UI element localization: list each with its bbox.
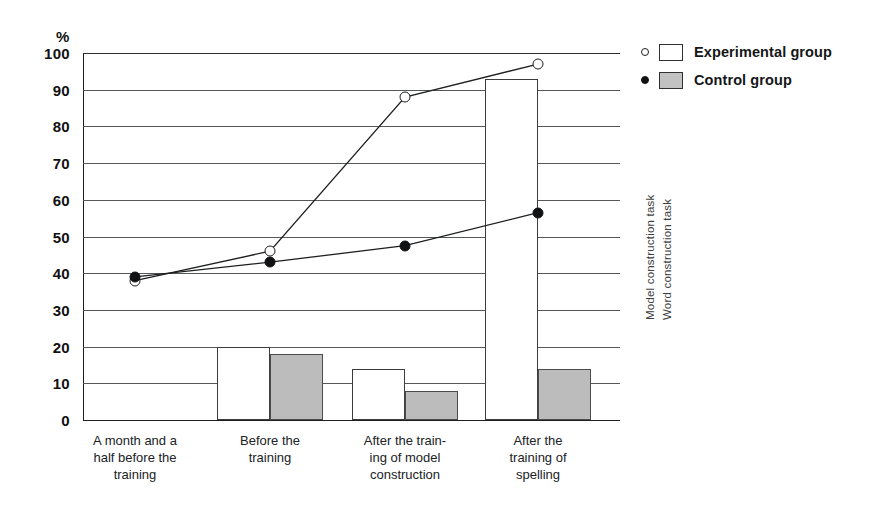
filled-circle-icon <box>636 76 654 84</box>
side-axis-label: Model construction task <box>644 195 656 320</box>
y-axis-tick-label: 100 <box>26 45 70 62</box>
chart-legend: Experimental groupControl group <box>636 40 886 96</box>
legend-dot <box>641 76 649 84</box>
legend-item[interactable]: Experimental group <box>636 40 886 64</box>
category-label-line: ing of model <box>330 449 480 466</box>
plot-area <box>83 53 620 420</box>
category-label-line: training of <box>463 449 613 466</box>
legend-dot <box>641 48 649 56</box>
open-circle-marker <box>400 92 411 103</box>
category-label-line: After the train- <box>330 432 480 449</box>
open-circle-marker <box>533 59 544 70</box>
y-axis-tick-label: 30 <box>26 301 70 318</box>
line-series-group <box>83 53 620 420</box>
gridline <box>83 420 620 421</box>
filled-circle-marker <box>130 271 141 282</box>
legend-swatch-gray <box>659 72 683 89</box>
filled-circle-marker <box>533 207 544 218</box>
line-experimental <box>135 64 538 281</box>
y-axis-tick-label: 70 <box>26 155 70 172</box>
open-circle-icon <box>636 48 654 56</box>
y-axis-tick-label: 80 <box>26 118 70 135</box>
y-axis-tick-label: 40 <box>26 265 70 282</box>
category-label-line: After the <box>463 432 613 449</box>
category-label-line: half before the <box>60 449 210 466</box>
y-axis-tick-label: 50 <box>26 228 70 245</box>
x-axis-category-label: A month and ahalf before thetraining <box>60 432 210 483</box>
side-axis-label: Word construction task <box>661 199 673 320</box>
legend-swatch-white <box>659 44 683 61</box>
y-axis-tick-label: 0 <box>26 412 70 429</box>
chart-figure: % 1009080706050403020100 Model construct… <box>0 0 889 508</box>
legend-label: Experimental group <box>694 44 832 60</box>
open-circle-marker <box>265 246 276 257</box>
y-axis-tick-label: 10 <box>26 375 70 392</box>
y-axis-tick-label: 90 <box>26 81 70 98</box>
category-label-line: Before the <box>195 432 345 449</box>
x-axis-category-label: After thetraining ofspelling <box>463 432 613 483</box>
x-axis-category-label: After the train-ing of modelconstruction <box>330 432 480 483</box>
filled-circle-marker <box>265 257 276 268</box>
category-label-line: training <box>195 449 345 466</box>
x-axis-category-label: Before thetraining <box>195 432 345 466</box>
category-label-line: A month and a <box>60 432 210 449</box>
legend-item[interactable]: Control group <box>636 68 886 92</box>
category-label-line: spelling <box>463 466 613 483</box>
y-axis-tick-label: 20 <box>26 338 70 355</box>
category-label-line: training <box>60 466 210 483</box>
filled-circle-marker <box>400 240 411 251</box>
legend-label: Control group <box>694 72 792 88</box>
y-axis-tick-label: 60 <box>26 191 70 208</box>
y-axis-unit-label: % <box>56 28 70 45</box>
category-label-line: construction <box>330 466 480 483</box>
